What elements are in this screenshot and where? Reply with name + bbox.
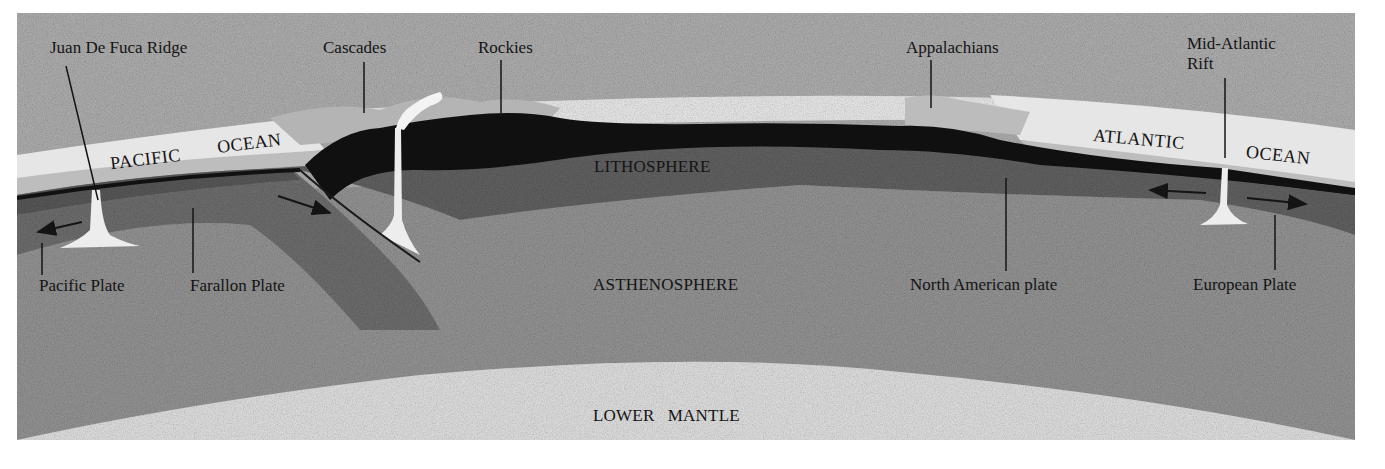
cross-section-illustration	[0, 0, 1385, 469]
label-north-american-plate: North American plate	[910, 276, 1057, 293]
label-lithosphere: LITHOSPHERE	[594, 158, 710, 175]
label-appalachians: Appalachians	[906, 39, 999, 56]
label-lower-mantle: LOWER MANTLE	[593, 407, 740, 424]
plate-tectonics-diagram: Juan De Fuca Ridge Cascades Rockies Appa…	[0, 0, 1385, 469]
label-european-plate: European Plate	[1193, 276, 1296, 293]
label-pacific-plate: Pacific Plate	[39, 277, 124, 294]
label-cascades: Cascades	[323, 39, 386, 56]
label-rockies: Rockies	[478, 39, 533, 56]
label-mid-atlantic-rift: Mid-Atlantic Rift	[1187, 34, 1276, 73]
label-juan-de-fuca-ridge: Juan De Fuca Ridge	[50, 39, 187, 56]
label-asthenosphere: ASTHENOSPHERE	[593, 276, 738, 293]
label-farallon-plate: Farallon Plate	[190, 277, 285, 294]
